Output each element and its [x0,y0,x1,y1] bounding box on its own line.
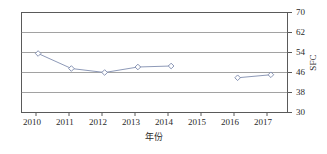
ytick-label-62: 62 [296,28,305,37]
xtick-label-2012: 2012 [89,118,107,127]
xtick-label-2015: 2015 [188,118,206,127]
xtick-label-2017: 2017 [254,118,272,127]
xtick-label-2013: 2013 [122,118,140,127]
x-axis-ticks [36,113,267,117]
x-axis-title: 年份 [145,132,163,142]
line-chart-canvas [0,0,327,154]
ytick-label-46: 46 [296,68,305,77]
ytick-label-70: 70 [296,8,305,17]
y-axis-ticks [288,13,293,113]
xtick-label-2016: 2016 [221,118,239,127]
ytick-label-30: 30 [296,108,305,117]
xtick-label-2010: 2010 [23,118,41,127]
xtick-label-2014: 2014 [155,118,173,127]
ytick-label-54: 54 [296,48,305,57]
chart-figure: 2010 2011 2012 2013 2014 2015 2016 2017 … [0,0,327,154]
xtick-label-2011: 2011 [56,118,74,127]
plot-frame [22,13,288,113]
y-axis-title: SFC [309,54,318,71]
ytick-label-38: 38 [296,88,305,97]
